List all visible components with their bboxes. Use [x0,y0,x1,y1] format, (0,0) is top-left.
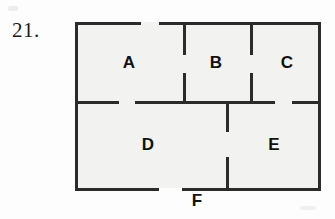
wall-middle-segment-right [292,101,318,104]
scan-artifact [300,206,316,210]
wall-middle-segment-left [75,101,119,104]
wall-bottom-right-segment [182,188,318,191]
floor-plan-interior [75,22,318,188]
floor-plan-figure: 21. A B C D E F [0,0,335,219]
wall-middle-segment-center [135,101,275,104]
wall-right-exterior [318,22,321,191]
wall-bc-lower-segment [250,73,253,104]
room-label-e: E [268,136,279,153]
scan-artifact [8,6,18,11]
wall-top-left-segment [75,22,141,25]
room-label-a: A [123,54,135,71]
wall-de-upper-segment [226,101,229,132]
problem-number: 21. [12,20,40,41]
wall-bc-upper-segment [250,22,253,55]
region-label-f: F [192,192,202,209]
room-label-d: D [142,136,154,153]
room-label-b: B [210,54,222,71]
room-label-c: C [281,54,293,71]
wall-de-lower-segment [226,157,229,189]
wall-ab-lower-segment [183,73,186,104]
wall-bottom-left-segment [75,188,159,191]
wall-left-exterior [75,22,78,191]
wall-ab-upper-segment [183,22,186,55]
